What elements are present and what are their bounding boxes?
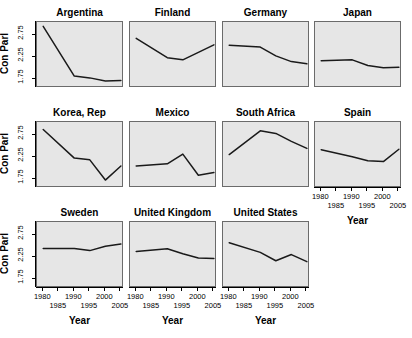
x-tick-label: 2000 <box>278 292 302 301</box>
y-tick-mark <box>32 278 36 279</box>
plot-area-finland <box>129 21 216 87</box>
x-tick-mark <box>397 187 398 191</box>
x-tick-label: 1990 <box>339 192 363 201</box>
panel-korea-rep: Korea, Rep <box>36 107 123 187</box>
x-tick-label: 1990 <box>247 292 271 301</box>
x-axis-spine <box>314 187 401 188</box>
x-tick-label: 1995 <box>170 301 194 310</box>
plot-area-united-kingdom <box>129 221 216 287</box>
x-tick-mark <box>119 287 120 291</box>
x-tick-mark <box>88 287 89 291</box>
series-line-united-kingdom <box>130 222 216 287</box>
x-tick-label: 1985 <box>139 301 163 310</box>
panel-japan: Japan <box>314 7 401 87</box>
x-tick-mark <box>150 287 151 291</box>
panel-title-spain: Spain <box>314 107 401 118</box>
x-tick-mark <box>366 187 367 191</box>
series-line-mexico <box>130 122 216 187</box>
x-axis-spine <box>36 287 123 288</box>
panel-germany: Germany <box>222 7 309 87</box>
series-line-spain <box>315 122 401 187</box>
series-line-south-africa <box>223 122 309 187</box>
x-tick-mark <box>57 287 58 291</box>
x-tick-mark <box>335 187 336 191</box>
y-tick-mark <box>32 134 36 135</box>
y-tick-mark <box>32 56 36 57</box>
panel-south-africa: South Africa <box>222 107 309 187</box>
x-tick-mark <box>212 287 213 291</box>
series-line-germany <box>223 22 309 87</box>
x-tick-label: 1985 <box>232 301 256 310</box>
panel-title-sweden: Sweden <box>36 207 123 218</box>
plot-area-germany <box>222 21 309 87</box>
trellis-plot: ArgentinaFinlandGermanyJapanKorea, RepMe… <box>0 0 412 338</box>
panel-title-argentina: Argentina <box>36 7 123 18</box>
y-axis-label: Con Parl <box>0 24 10 84</box>
x-axis-spine <box>129 287 216 288</box>
panel-spain: Spain <box>314 107 401 187</box>
x-tick-label: 1990 <box>61 292 85 301</box>
series-line-united-states <box>223 222 309 287</box>
x-axis-row3-col1: 198019851990199520002005 <box>36 287 123 309</box>
x-tick-mark <box>181 287 182 291</box>
x-axis-row3-col3: 198019851990199520002005 <box>222 287 309 309</box>
series-line-finland <box>130 22 216 87</box>
x-tick-label: 1980 <box>308 192 332 201</box>
panel-title-united-states: United States <box>222 207 309 218</box>
series-line-argentina <box>37 22 123 87</box>
x-tick-label: 1990 <box>154 292 178 301</box>
x-tick-mark <box>243 287 244 291</box>
x-tick-mark <box>135 287 136 291</box>
plot-area-japan <box>314 21 401 87</box>
x-tick-label: 1985 <box>46 301 70 310</box>
x-axis-label-row3-col1: Year <box>36 315 123 326</box>
panel-title-germany: Germany <box>222 7 309 18</box>
y-tick-label: 2.25 <box>16 144 25 166</box>
panel-title-mexico: Mexico <box>129 107 216 118</box>
x-tick-mark <box>197 287 198 291</box>
x-tick-label: 2000 <box>185 292 209 301</box>
panel-title-united-kingdom: United Kingdom <box>129 207 216 218</box>
panel-title-south-africa: South Africa <box>222 107 309 118</box>
x-tick-label: 1995 <box>355 201 379 210</box>
panel-argentina: Argentina <box>36 7 123 87</box>
x-tick-mark <box>305 287 306 291</box>
y-tick-mark <box>32 178 36 179</box>
x-axis-row3-col2: 198019851990199520002005 <box>129 287 216 309</box>
series-line-korea-rep <box>37 122 123 187</box>
y-tick-mark <box>32 78 36 79</box>
y-tick-mark <box>32 34 36 35</box>
plot-area-korea-rep <box>36 121 123 187</box>
x-axis-label-row2-col4: Year <box>314 215 401 226</box>
panel-title-japan: Japan <box>314 7 401 18</box>
y-tick-label: 1.75 <box>16 266 25 288</box>
x-axis-label-row3-col3: Year <box>222 315 309 326</box>
y-tick-label: 2.75 <box>16 22 25 44</box>
y-axis-label: Con Parl <box>0 224 10 284</box>
y-tick-label: 2.25 <box>16 244 25 266</box>
y-axis-row-1: 1.752.252.75 <box>29 21 36 87</box>
plot-area-mexico <box>129 121 216 187</box>
series-line-sweden <box>37 222 123 287</box>
panel-title-finland: Finland <box>129 7 216 18</box>
plot-area-spain <box>314 121 401 187</box>
panel-title-korea-rep: Korea, Rep <box>36 107 123 118</box>
y-axis-label: Con Parl <box>0 124 10 184</box>
x-tick-label: 1980 <box>30 292 54 301</box>
x-tick-label: 1980 <box>216 292 240 301</box>
panel-mexico: Mexico <box>129 107 216 187</box>
y-tick-mark <box>32 256 36 257</box>
x-tick-mark <box>73 287 74 291</box>
y-tick-label: 2.25 <box>16 44 25 66</box>
x-tick-mark <box>320 187 321 191</box>
x-tick-label: 1985 <box>324 201 348 210</box>
y-tick-label: 1.75 <box>16 166 25 188</box>
series-line-japan <box>315 22 401 87</box>
plot-area-south-africa <box>222 121 309 187</box>
y-axis-row-2: 1.752.252.75 <box>29 121 36 187</box>
x-tick-mark <box>290 287 291 291</box>
x-axis-row2-col4: 198019851990199520002005 <box>314 187 401 209</box>
x-tick-label: 2005 <box>294 301 318 310</box>
x-tick-mark <box>228 287 229 291</box>
x-tick-label: 1995 <box>263 301 287 310</box>
